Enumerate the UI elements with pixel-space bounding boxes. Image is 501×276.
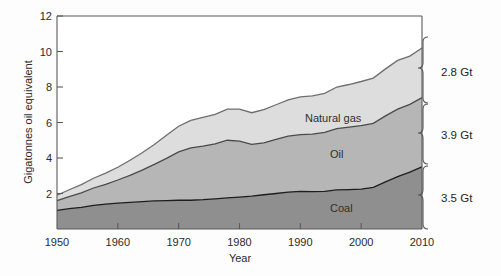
series-label-natural-gas: Natural gas (305, 112, 362, 124)
total-label-gas: 2.8 Gt (441, 66, 473, 78)
y-tick-label: 10 (40, 46, 52, 58)
x-tick-label: 1980 (227, 236, 251, 248)
y-tick-label: 2 (46, 188, 52, 200)
stacked-area-chart: 12108642 1950196019701980199020002010 Gi… (0, 0, 501, 276)
y-axis-title: Gigatonnes oil equivalent (22, 60, 34, 184)
figure-container: 12108642 1950196019701980199020002010 Gi… (0, 0, 501, 276)
x-tick-label: 2010 (410, 236, 434, 248)
y-tick-label: 12 (40, 10, 52, 22)
series-label-coal: Coal (330, 202, 353, 214)
y-tick-label: 4 (46, 152, 52, 164)
y-tick-label: 8 (46, 81, 52, 93)
x-tick-label: 1990 (288, 236, 312, 248)
total-label-coal: 3.5 Gt (441, 192, 473, 204)
x-tick-label: 1950 (45, 236, 69, 248)
y-tick-label: 6 (46, 117, 52, 129)
series-label-oil: Oil (330, 148, 343, 160)
x-tick-label: 1970 (166, 236, 190, 248)
x-axis-title: Year (229, 252, 252, 264)
x-tick-label: 2000 (349, 236, 373, 248)
total-label-oil: 3.9 Gt (441, 129, 473, 141)
x-tick-label: 1960 (106, 236, 130, 248)
